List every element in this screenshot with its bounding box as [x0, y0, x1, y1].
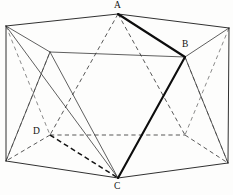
edge-ul-bl [6, 52, 50, 161]
edge-tr-br [228, 28, 229, 163]
edge-a-b-bold [118, 14, 185, 57]
edge-a-d-hidden [50, 14, 118, 135]
edge-tr-lr-hidden [185, 28, 229, 135]
edge-ul-b [50, 52, 185, 57]
edge-d-c-hidden [50, 135, 118, 178]
edge-lr-br-hidden [185, 135, 228, 163]
edge-ul-c [50, 52, 118, 178]
edge-tl-c [6, 26, 118, 178]
vertex-label-c: C [114, 182, 120, 192]
highlight-edges-group [118, 14, 185, 178]
edge-br-c [118, 163, 228, 178]
edge-bl-c [6, 161, 118, 178]
edge-tr-b [185, 28, 229, 57]
polyhedron-diagram [0, 0, 233, 195]
edge-b-br [185, 57, 228, 163]
vertex-label-a: A [114, 1, 121, 11]
edge-tl-d-hidden [6, 26, 50, 135]
hidden-edges-group [6, 14, 229, 178]
edge-a-tl [6, 14, 118, 26]
vertex-label-b: B [182, 40, 188, 50]
vertex-label-d: D [33, 127, 40, 137]
edge-tl-ul [6, 26, 50, 52]
edge-d-bl-hidden [6, 135, 50, 161]
visible-edges-group [6, 14, 229, 178]
polyhedron-figure: A B C D [0, 0, 233, 195]
